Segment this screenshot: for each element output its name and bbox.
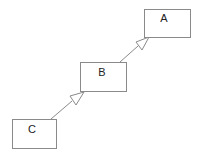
node-a-label: A (160, 12, 168, 24)
node-c-label: C (28, 123, 36, 135)
edge-b-to-a (120, 37, 149, 62)
node-c[interactable]: C (13, 120, 57, 149)
edge-c-to-b (51, 92, 84, 119)
node-b[interactable]: B (81, 63, 127, 92)
diagram-canvas: A B C (0, 0, 198, 156)
node-b-label: B (98, 66, 105, 78)
node-a[interactable]: A (145, 10, 191, 38)
inheritance-arrowhead-icon (136, 37, 149, 50)
inheritance-arrowhead-icon (70, 92, 84, 105)
